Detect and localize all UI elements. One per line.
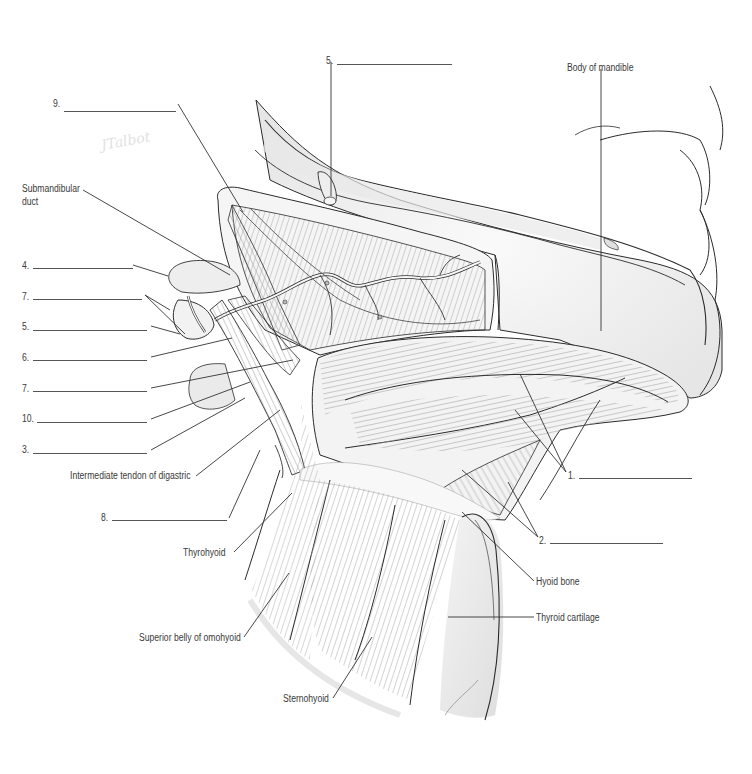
label-number: 5. (326, 55, 333, 67)
sternohyoid-label: Sternohyoid (283, 693, 329, 705)
answer-blank-3[interactable] (33, 453, 147, 454)
answer-blank-5-top[interactable] (337, 64, 452, 65)
label-number: 7. (22, 383, 29, 395)
answer-blank-6[interactable] (33, 360, 147, 361)
answer-blank-5[interactable] (33, 330, 147, 331)
thyroid-cartilage-label: Thyroid cartilage (536, 612, 600, 624)
label-number: 7. (22, 291, 29, 303)
label-number: 2. (539, 535, 546, 547)
answer-blank-7a[interactable] (33, 299, 142, 300)
body-of-mandible-label: Body of mandible (567, 62, 633, 74)
superior-belly-omohyoid-label: Superior belly of omohyoid (139, 632, 241, 644)
submandibular-duct-label: Submandibular (22, 183, 80, 195)
hyoid-bone-label: Hyoid bone (536, 576, 580, 588)
illustration: JTalbot (0, 0, 752, 774)
label-number: 1. (568, 470, 575, 482)
label-number: 3. (22, 444, 29, 456)
label-number: 5. (22, 321, 29, 333)
artist-signature: JTalbot (97, 129, 152, 154)
label-number: 6. (22, 352, 29, 364)
answer-blank-1[interactable] (579, 478, 692, 479)
answer-blank-7b[interactable] (33, 391, 147, 392)
submandibular-duct-label-line2: duct (22, 196, 38, 208)
label-number: 8. (101, 512, 108, 524)
answer-blank-9[interactable] (64, 111, 176, 112)
answer-blank-10[interactable] (37, 422, 147, 423)
answer-blank-2[interactable] (550, 543, 663, 544)
intermediate-tendon-label: Intermediate tendon of digastric (70, 470, 190, 482)
label-number: 9. (53, 98, 60, 110)
anatomy-diagram: JTalbot (0, 0, 752, 774)
answer-blank-8[interactable] (112, 520, 227, 521)
label-number: 4. (22, 260, 29, 272)
label-number: 10. (22, 413, 34, 425)
answer-blank-4[interactable] (33, 268, 133, 269)
thyrohyoid-label: Thyrohyoid (183, 547, 226, 559)
